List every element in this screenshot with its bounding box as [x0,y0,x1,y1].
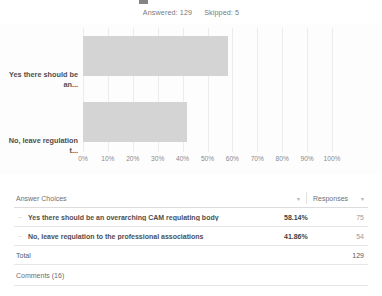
question-anchor-marker [139,0,148,4]
bar-chart: Yes there should be an... No, leave regu… [0,24,382,174]
chart-category-label-1: No, leave regulation t... [6,136,78,156]
x-axis-tick: 50% [201,155,214,162]
chart-bars [83,28,332,152]
column-header-responses[interactable]: Responses [313,195,359,202]
chart-category-label-0: Yes there should be an... [6,70,78,90]
sort-caret-responses-icon[interactable]: ▾ [361,195,368,202]
comments-label: Comments (16) [16,272,64,279]
x-axis-tick: 90% [300,155,313,162]
answer-count: 75 [330,214,368,221]
x-axis-tick: 80% [276,155,289,162]
x-axis-tick: 20% [126,155,139,162]
total-label: Total [14,252,330,259]
answer-choice-label: Yes there should be an overarching CAM r… [26,214,284,221]
x-axis-tick: 10% [101,155,114,162]
total-value: 129 [330,252,368,259]
comments-toggle[interactable]: Comments (16) [14,265,368,286]
header-divider [306,192,307,204]
table-row: – Yes there should be an overarching CAM… [14,208,368,227]
response-summary: Answered: 129 Skipped: 5 [0,8,382,17]
gridline [332,28,333,152]
x-axis-tick: 0% [78,155,88,162]
answer-choice-label: No, leave regulation to the professional… [26,233,284,240]
table-header-row: Answer Choices ▾ Responses ▾ [14,189,368,208]
chart-bar [83,102,187,142]
table-row: – No, leave regulation to the profession… [14,227,368,246]
x-axis-tick: 60% [226,155,239,162]
column-header-choices[interactable]: Answer Choices [14,195,297,202]
table-total-row: Total 129 [14,246,368,265]
sort-caret-choices-icon[interactable]: ▾ [297,195,304,202]
answer-percent: 58.14% [284,214,330,221]
answered-count: Answered: 129 [143,8,192,17]
chart-x-axis: 0%10%20%30%40%50%60%70%80%90%100% [83,155,332,167]
results-table: Answer Choices ▾ Responses ▾ – Yes there… [14,189,368,286]
answer-count: 54 [330,233,368,240]
skipped-count: Skipped: 5 [204,8,239,17]
row-marker-icon: – [14,214,26,220]
chart-bar [83,36,228,76]
x-axis-tick: 30% [151,155,164,162]
row-marker-icon: – [14,233,26,239]
x-axis-tick: 70% [251,155,264,162]
survey-question-result: Answered: 129 Skipped: 5 Yes there shoul… [0,0,382,296]
x-axis-tick: 40% [176,155,189,162]
answer-percent: 41.86% [284,233,330,240]
x-axis-tick: 100% [324,155,341,162]
